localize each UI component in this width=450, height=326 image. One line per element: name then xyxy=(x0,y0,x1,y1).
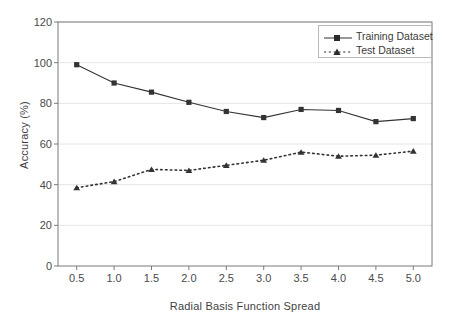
data-point-marker xyxy=(224,109,229,114)
data-point-marker xyxy=(299,107,304,112)
data-point-marker xyxy=(112,80,117,85)
data-point-marker xyxy=(186,100,191,105)
data-point-marker xyxy=(410,148,417,154)
data-point-marker xyxy=(149,90,154,95)
data-point-marker xyxy=(411,116,416,121)
legend-dotted-triangle-marker-icon xyxy=(323,44,353,56)
data-point-marker xyxy=(373,152,380,158)
data-point-marker xyxy=(74,62,79,67)
series-line-test-dataset xyxy=(77,151,414,188)
legend-item-training-dataset: Training Dataset xyxy=(323,29,427,43)
legend-item-test-dataset: Test Dataset xyxy=(323,43,427,57)
accuracy-vs-rbf-spread-chart: Accuracy (%) 020406080100120 0.51.01.52.… xyxy=(0,0,450,326)
legend-label-test-dataset: Test Dataset xyxy=(356,44,414,56)
data-point-marker xyxy=(73,185,80,191)
data-point-marker xyxy=(373,119,378,124)
data-point-marker xyxy=(261,115,266,120)
legend-label-training-dataset: Training Dataset xyxy=(356,30,433,42)
data-point-marker xyxy=(336,108,341,113)
series-line-training-dataset xyxy=(77,65,414,122)
chart-legend: Training Dataset Test Dataset xyxy=(318,25,432,58)
data-point-marker xyxy=(148,166,155,172)
legend-solid-square-marker-icon xyxy=(323,30,353,42)
